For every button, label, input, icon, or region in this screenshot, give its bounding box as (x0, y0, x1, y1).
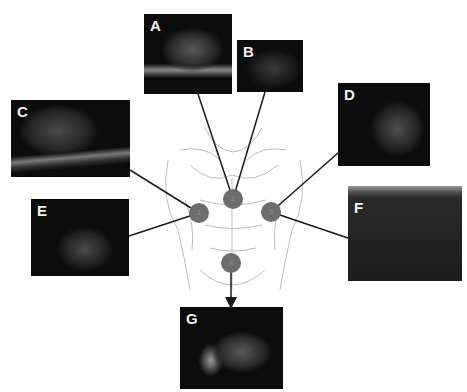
probe-number: 3 (269, 208, 273, 215)
probe-position-4: 4 (221, 253, 241, 273)
probe-number: 4 (229, 259, 233, 266)
probe-position-1: 1 (189, 203, 209, 223)
probe-number: 2 (231, 195, 235, 202)
probe-position-2: 2 (223, 189, 243, 209)
probe-number: 1 (197, 209, 201, 216)
probe-position-3: 3 (261, 202, 281, 222)
